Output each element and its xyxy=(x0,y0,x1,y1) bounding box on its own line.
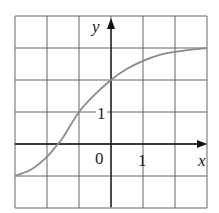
origin-label: 0 xyxy=(95,150,104,167)
y-axis-arrow-icon xyxy=(107,18,115,29)
x-tick-label: 1 xyxy=(138,152,147,169)
chart-plot xyxy=(0,0,219,213)
y-axis-label: y xyxy=(92,18,100,35)
x-axis-arrow-icon xyxy=(197,140,207,148)
x-axis-label: x xyxy=(198,152,206,169)
y-tick-label: 1 xyxy=(96,105,107,122)
